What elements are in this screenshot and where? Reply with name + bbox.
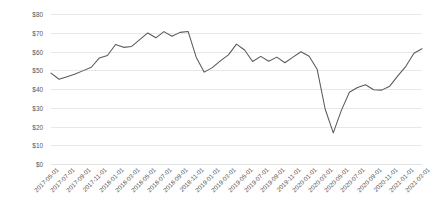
y-axis-tick-label: $20	[32, 123, 43, 130]
plot-area	[51, 14, 422, 164]
y-axis-tick-label: $30	[32, 104, 43, 111]
series-line-svg	[51, 14, 422, 164]
x-axis-labels: 2017-05-012017-07-012017-09-012017-11-01…	[51, 166, 426, 219]
y-axis-tick-label: $80	[32, 11, 43, 18]
y-axis-labels: $0$10$20$30$40$50$60$70$80	[0, 14, 47, 164]
y-axis-tick-label: $0	[36, 161, 43, 168]
y-axis-tick-label: $70	[32, 29, 43, 36]
y-axis-tick-label: $50	[32, 67, 43, 74]
y-axis-tick-label: $10	[32, 142, 43, 149]
y-axis-tick-label: $40	[32, 86, 43, 93]
series-line-path	[51, 31, 422, 132]
gridline	[51, 164, 422, 165]
y-axis-tick-label: $60	[32, 48, 43, 55]
